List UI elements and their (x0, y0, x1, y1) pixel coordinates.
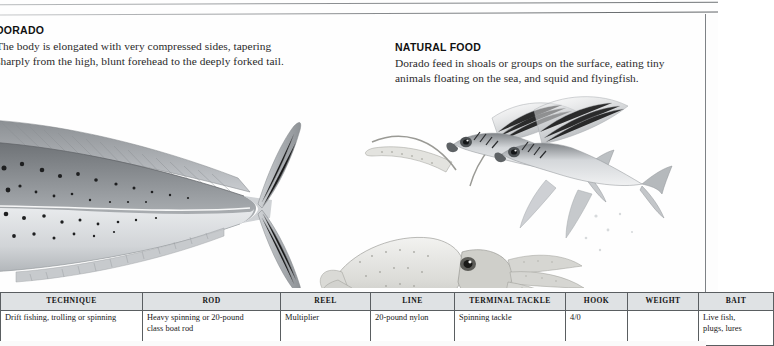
dorado-body-line-1: The body is elongated with very compress… (0, 39, 366, 54)
col-header-technique: TECHNIQUE (1, 293, 143, 311)
natural-food-body-line-2: animals floating on the sea, and squid a… (395, 71, 705, 86)
section-dorado: DORADO The body is elongated with very c… (0, 24, 366, 68)
col-header-reel: REEL (281, 293, 371, 311)
dorado-body-line-2: sharply from the high, blunt forehead to… (0, 54, 366, 69)
natural-food-heading: NATURAL FOOD (395, 41, 705, 53)
section-natural-food: NATURAL FOOD Dorado feed in shoals or gr… (395, 41, 705, 85)
dorado-illustration (0, 120, 301, 288)
spec-table: TECHNIQUE ROD REEL LINE TERMINAL TACKLE … (0, 292, 774, 346)
page-top-rule-lower (0, 12, 718, 16)
col-header-terminal-tackle: TERMINAL TACKLE (455, 293, 566, 311)
col-header-line: LINE (371, 293, 455, 311)
spec-table-header-row: TECHNIQUE ROD REEL LINE TERMINAL TACKLE … (1, 293, 774, 311)
natural-food-body-line-1: Dorado feed in shoals or groups on the s… (395, 56, 705, 71)
cell-bait: Live fish, plugs, lures (699, 311, 774, 346)
cell-rod-line-2: class boat rod (147, 324, 276, 335)
dorado-heading: DORADO (0, 24, 366, 36)
spec-table-container: TECHNIQUE ROD REEL LINE TERMINAL TACKLE … (0, 292, 701, 341)
page-bottom-margin (0, 341, 706, 346)
cell-rod-line-1: Heavy spinning or 20-pound (147, 313, 276, 324)
cell-bait-line-2: plugs, lures (703, 324, 769, 335)
col-header-weight: WEIGHT (628, 293, 699, 311)
col-header-bait: BAIT (699, 293, 774, 311)
illustration-panel (0, 96, 706, 288)
col-header-rod: ROD (143, 293, 281, 311)
page-top-rule-upper (0, 2, 718, 5)
cell-bait-line-1: Live fish, (703, 313, 769, 324)
col-header-hook: HOOK (566, 293, 628, 311)
